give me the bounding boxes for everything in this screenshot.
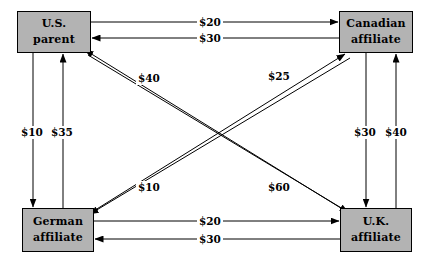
node-uk-affiliate-line1: U.K.	[363, 214, 390, 230]
flow-label-german-to-uk: $20	[197, 215, 223, 228]
flow-label-us-to-canadian: $20	[197, 16, 223, 29]
transfer-pricing-flow-diagram: U.S. parent Canadian affiliate German af…	[0, 0, 429, 263]
flow-label-canadian-to-uk: $30	[352, 126, 378, 139]
flow-label-uk-to-canadian: $40	[383, 126, 409, 139]
flow-label-canadian-to-us: $30	[197, 32, 223, 45]
flow-label-uk-to-us: $40	[136, 72, 162, 85]
node-us-parent-line1: U.S.	[42, 16, 67, 32]
node-german-affiliate-line1: German	[33, 214, 83, 230]
node-canadian-affiliate[interactable]: Canadian affiliate	[339, 11, 413, 53]
node-german-affiliate[interactable]: German affiliate	[22, 208, 94, 252]
flow-label-canadian-to-german: $10	[136, 181, 162, 194]
node-uk-affiliate[interactable]: U.K. affiliate	[340, 208, 412, 252]
node-german-affiliate-line2: affiliate	[33, 230, 83, 246]
flow-label-uk-to-german: $30	[197, 233, 223, 246]
node-uk-affiliate-line2: affiliate	[351, 230, 401, 246]
flow-line-canadian-to-german	[90, 58, 350, 214]
node-us-parent[interactable]: U.S. parent	[17, 11, 91, 53]
flow-label-german-to-canadian: $25	[266, 70, 292, 83]
node-canadian-affiliate-line1: Canadian	[346, 16, 406, 32]
flow-label-us-to-uk: $60	[266, 181, 292, 194]
node-canadian-affiliate-line2: affiliate	[351, 32, 401, 48]
flow-label-us-to-german: $10	[19, 126, 45, 139]
node-us-parent-line2: parent	[33, 32, 75, 48]
flow-line-us-to-uk	[88, 55, 348, 212]
flow-label-german-to-us: $35	[49, 126, 75, 139]
